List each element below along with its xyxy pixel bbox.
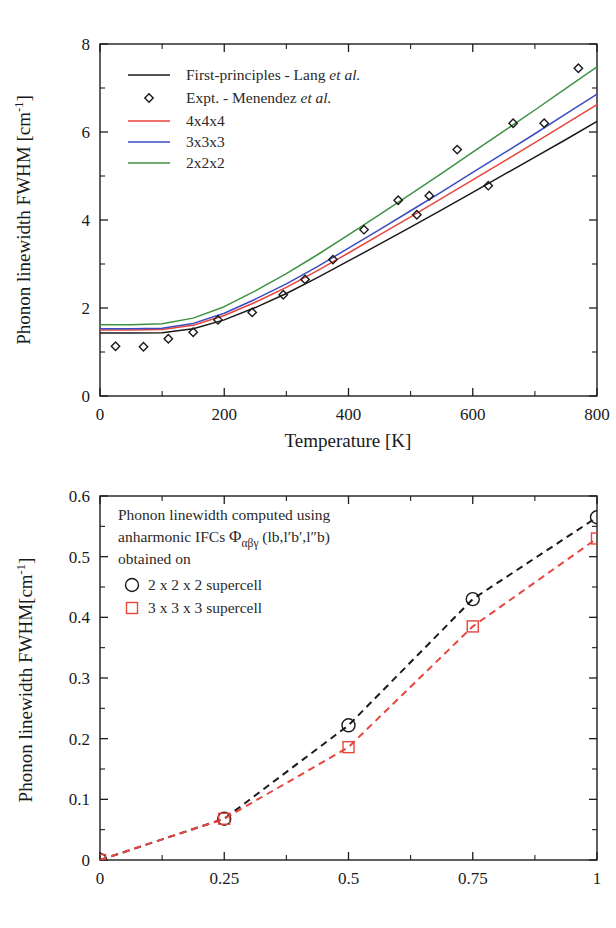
top-plot-frame [100,44,597,396]
top-xticklabel: 800 [584,405,610,424]
top-legend-label: 3x3x3 [186,133,225,150]
svg-text:Phonon linewidth FWHM[cm-1]: Phonon linewidth FWHM[cm-1] [14,558,36,803]
top-series-line [100,67,597,325]
top-yticklabel: 8 [82,35,91,54]
bottom-xticklabel: 0.25 [209,869,239,888]
top-legend-diamond-swatch [145,94,153,102]
top-xticklabel: 0 [96,405,105,424]
top-x-axis-title: Temperature [K] [285,430,412,451]
bottom-legend-item [126,579,139,592]
top-legend-label: Expt. - Menendez et al. [186,89,332,106]
bottom-marker-circle [218,812,231,825]
bottom-series-line [100,517,597,860]
bottom-annotation-line-2: anharmonic IFCs Φαβγ (lb,l′b′,l″b) [118,527,330,550]
top-yticklabel: 0 [82,387,91,406]
bottom-xticklabel: 0.5 [338,869,359,888]
bottom-legend-circle-swatch [126,579,139,592]
bottom-marker-circle [342,719,355,732]
top-legend-label: 4x4x4 [186,112,225,129]
bottom-xticklabel: 0.75 [458,869,488,888]
bottom-yticklabel: 0.5 [69,548,90,567]
top-xticklabel: 400 [336,405,362,424]
top-xticklabel: 200 [212,405,238,424]
bottom-y-axis-title: Phonon linewidth FWHM[cm-1] [14,558,36,803]
bottom-legend-label: 3 x 3 x 3 supercell [148,599,262,616]
bottom-chart-svg: 00.250.50.75100.10.20.30.40.50.6Phonon l… [0,470,616,928]
top-legend-item: 2x2x2 [128,154,225,171]
bottom-legend-item [127,603,138,614]
top-marker-diamond [164,335,172,343]
phonon-linewidth-figure: 020040060080002468Phonon linewidth FWHM … [0,0,616,928]
top-series-line [100,121,597,333]
bottom-marker-circle [466,593,479,606]
bottom-legend-square-swatch [127,603,138,614]
top-marker-diamond [111,342,119,350]
top-legend-item: 3x3x3 [128,133,225,150]
top-legend-label: First-principles - Lang et al. [186,66,360,83]
top-legend-item: 4x4x4 [128,112,225,129]
bottom-yticklabel: 0.6 [69,487,90,506]
top-yticklabel: 2 [82,299,91,318]
top-legend-label: 2x2x2 [186,154,225,171]
top-legend-item: First-principles - Lang et al. [128,66,360,83]
top-y-axis-title: Phonon linewidth FWHM [cm-1] [12,95,34,345]
bottom-xticklabel: 0 [96,869,105,888]
top-yticklabel: 4 [82,211,91,230]
top-yticklabel: 6 [82,123,91,142]
top-marker-diamond [574,64,582,72]
bottom-yticklabel: 0.2 [69,730,90,749]
top-legend-item: Expt. - Menendez et al. [145,89,332,106]
bottom-chart-panel: 00.250.50.75100.10.20.30.40.50.6Phonon l… [0,470,616,928]
top-xticklabel: 600 [460,405,486,424]
top-series-line [100,105,597,330]
bottom-legend-label: 2 x 2 x 2 supercell [148,576,262,593]
svg-text:Phonon linewidth FWHM [cm-1]: Phonon linewidth FWHM [cm-1] [12,95,34,345]
top-chart-panel: 020040060080002468Phonon linewidth FWHM … [0,0,616,470]
bottom-annotation-line-1: Phonon linewidth computed using [118,506,331,523]
bottom-annotation-line-3: obtained on [118,550,191,567]
top-chart-svg: 020040060080002468Phonon linewidth FWHM … [0,0,616,470]
bottom-xticklabel: 1 [593,869,602,888]
bottom-yticklabel: 0.3 [69,669,90,688]
bottom-yticklabel: 0.1 [69,790,90,809]
bottom-yticklabel: 0 [82,851,91,870]
top-marker-diamond [139,343,147,351]
bottom-yticklabel: 0.4 [69,608,91,627]
top-series-line [100,94,597,329]
top-marker-diamond [453,145,461,153]
